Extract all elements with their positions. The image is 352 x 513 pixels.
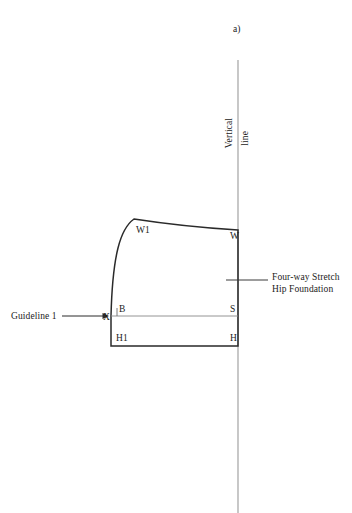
point-label-w1: W1 <box>136 225 150 236</box>
point-label-h1: H1 <box>116 333 128 344</box>
pattern-block-outline <box>111 219 238 346</box>
point-label-h: H <box>230 333 237 344</box>
point-label-w: W <box>230 231 239 242</box>
callout-label-line2: Hip Foundation <box>272 284 333 294</box>
vertical-line-label-part2: line <box>240 131 251 146</box>
callout-label: Four-way StretchHip Foundation <box>272 272 340 296</box>
vertical-line-label-part1: Vertical <box>224 118 235 148</box>
pattern-drafting-diagram <box>0 0 352 513</box>
callout-label-line1: Four-way Stretch <box>272 272 340 282</box>
point-label-x: X <box>103 312 110 323</box>
panel-label: a) <box>233 24 241 35</box>
point-label-s: S <box>230 304 235 315</box>
figure-container: a) Vertical line W1 W S H H1 X B Guideli… <box>0 0 352 513</box>
guideline-label: Guideline 1 <box>11 311 57 322</box>
point-label-b: B <box>119 304 125 315</box>
